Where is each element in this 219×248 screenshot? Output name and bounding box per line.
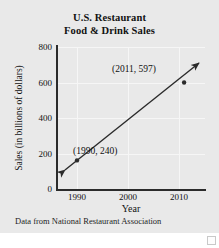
point-label-1990: (1990, 240)	[73, 146, 117, 156]
resize-handle-icon[interactable]	[207, 236, 216, 245]
chart-figure-panel: U.S. Restaurant Food & Drink Sales Sales…	[0, 0, 219, 233]
chart-title: U.S. Restaurant Food & Drink Sales	[0, 12, 219, 37]
data-point-2011	[182, 80, 186, 84]
trend-line-group	[45, 35, 217, 201]
x-axis-title: Year	[57, 203, 205, 214]
point-label-2011: (2011, 597)	[112, 64, 156, 74]
source-caption: Data from National Restaurant Associatio…	[15, 216, 161, 226]
y-axis-title: Sales (in billions of dollars)	[14, 47, 28, 189]
chart-title-line-1: U.S. Restaurant	[0, 12, 219, 25]
data-point-1990	[75, 158, 79, 162]
